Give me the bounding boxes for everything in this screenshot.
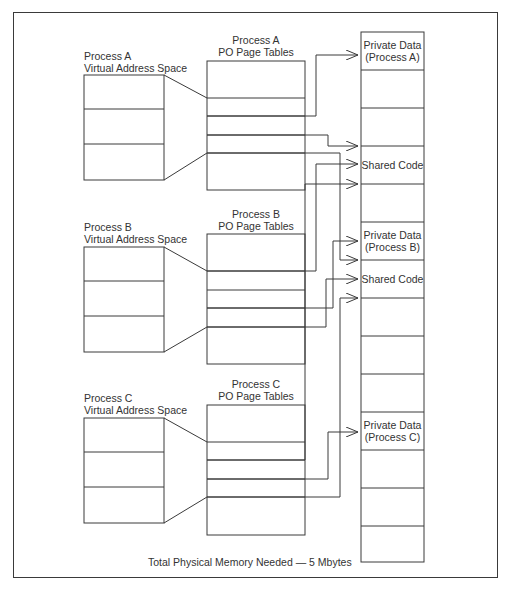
- frame-shared-code-2: Shared Code: [361, 273, 424, 285]
- process-b-page-mapping-arrows: [207, 164, 358, 327]
- process-a-pt-label: Process A PO Page Tables: [218, 34, 294, 58]
- frame-label-line1: Shared Code: [361, 273, 424, 285]
- frame-private-data-c: Private Data (Process C): [361, 419, 424, 443]
- frame-label-line1: Private Data: [361, 229, 424, 241]
- process-b-virtual-address-space: [84, 247, 164, 352]
- diagram-caption: Total Physical Memory Needed — 5 Mbytes: [148, 556, 352, 568]
- frame-label-line2: (Process A): [361, 51, 424, 63]
- process-a-va-label-line1: Process A: [84, 50, 187, 62]
- process-c-virtual-address-space: [84, 418, 164, 523]
- process-c-pt-label-line1: Process C: [218, 378, 294, 390]
- process-c-mapping-lines: [164, 418, 207, 523]
- frame-label-line1: Shared Code: [361, 159, 424, 171]
- process-b-pt-label-line2: PO Page Tables: [218, 220, 294, 232]
- process-c-pt-label: Process C PO Page Tables: [218, 378, 294, 402]
- process-c-va-label-line1: Process C: [84, 392, 187, 404]
- frame-private-data-b: Private Data (Process B): [361, 229, 424, 253]
- frame-label-line1: Private Data: [361, 39, 424, 51]
- process-b-pt-label: Process B PO Page Tables: [218, 208, 294, 232]
- process-a-page-table: [207, 61, 305, 190]
- process-b-va-label-line1: Process B: [84, 221, 187, 233]
- process-c-va-label-line2: Virtual Address Space: [84, 404, 187, 416]
- process-a-va-label: Process A Virtual Address Space: [84, 50, 187, 74]
- process-b-mapping-lines: [164, 247, 207, 352]
- frame-shared-code-1: Shared Code: [361, 159, 424, 171]
- process-c-pt-label-line2: PO Page Tables: [218, 390, 294, 402]
- frame-label-line2: (Process B): [361, 241, 424, 253]
- process-a-virtual-address-space: [84, 75, 164, 180]
- process-b-va-label-line2: Virtual Address Space: [84, 233, 187, 245]
- process-a-pt-label-line2: PO Page Tables: [218, 46, 294, 58]
- frame-label-line2: (Process C): [361, 431, 424, 443]
- process-b-pt-label-line1: Process B: [218, 208, 294, 220]
- frame-private-data-a: Private Data (Process A): [361, 39, 424, 63]
- memory-mapping-diagram: [0, 0, 510, 598]
- process-c-va-label: Process C Virtual Address Space: [84, 392, 187, 416]
- process-a-pt-label-line1: Process A: [218, 34, 294, 46]
- physical-memory-column: [361, 32, 424, 562]
- process-b-va-label: Process B Virtual Address Space: [84, 221, 187, 245]
- frame-label-line1: Private Data: [361, 419, 424, 431]
- process-b-page-table: [207, 234, 305, 364]
- process-a-va-label-line2: Virtual Address Space: [84, 62, 187, 74]
- process-a-mapping-lines: [164, 75, 207, 180]
- process-c-page-table: [207, 405, 305, 535]
